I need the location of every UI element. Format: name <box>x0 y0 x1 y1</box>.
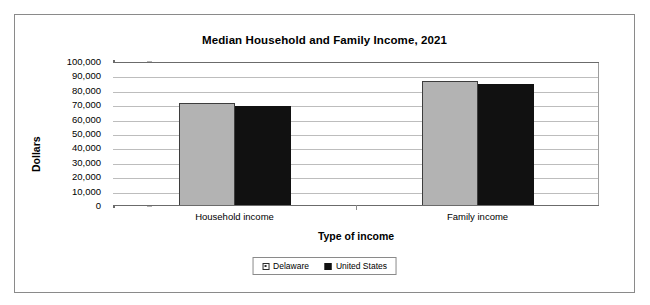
legend-swatch-icon <box>325 263 332 270</box>
plot-right-spine <box>598 63 599 205</box>
y-axis-tick-label: 10,000 <box>72 187 101 197</box>
chart-title: Median Household and Family Income, 2021 <box>15 34 634 46</box>
y-axis-title: Dollars <box>29 119 43 189</box>
plot-area-wrapper <box>113 62 599 206</box>
bar-united-states-household-income[interactable] <box>235 106 291 205</box>
x-axis-title: Type of income <box>113 230 599 242</box>
y-axis-tick-label: 80,000 <box>72 86 101 96</box>
y-axis-tick-label: 60,000 <box>72 115 101 125</box>
y-axis-tick-label: 40,000 <box>72 144 101 154</box>
y-axis-tick-label: 50,000 <box>72 129 101 139</box>
x-axis-tick-mark <box>356 205 357 210</box>
y-axis-tick-label: 70,000 <box>72 100 101 110</box>
y-axis-tick-label: 90,000 <box>72 72 101 82</box>
legend-label: United States <box>336 261 387 271</box>
bar-group <box>179 63 291 205</box>
y-axis-tick-label: 30,000 <box>72 158 101 168</box>
chart-figure-frame: Median Household and Family Income, 2021… <box>14 14 635 293</box>
bar-united-states-family-income[interactable] <box>478 84 534 205</box>
legend-label: Delaware <box>273 261 309 271</box>
plot-area <box>113 62 599 206</box>
bar-delaware-household-income[interactable] <box>179 103 235 205</box>
legend-item-delaware[interactable]: Delaware <box>262 261 309 271</box>
y-axis-tick-label: 100,000 <box>67 57 101 67</box>
y-axis-tick-labels: 100,00090,00080,00070,00060,00050,00040,… <box>55 62 107 206</box>
bar-delaware-family-income[interactable] <box>422 81 478 205</box>
bar-group <box>422 63 534 205</box>
chart-legend: DelawareUnited States <box>252 257 397 275</box>
x-axis-category-label: Household income <box>195 211 274 222</box>
x-axis-category-label: Family income <box>447 211 508 222</box>
y-axis-tick-label: 0 <box>96 201 101 211</box>
y-axis-tick-label: 20,000 <box>72 172 101 182</box>
x-axis-category-labels: Household incomeFamily income <box>113 211 599 225</box>
legend-item-united-states[interactable]: United States <box>325 261 387 271</box>
legend-swatch-icon <box>262 263 269 270</box>
